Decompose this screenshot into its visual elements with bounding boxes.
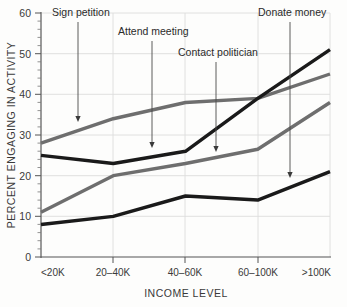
chart-page: 60 50 40 30 20 10 0 <20K 20–40K 40–60K 6…	[0, 0, 347, 307]
annotation-label-donate-money: Donate money	[258, 6, 327, 18]
series-line-sign-petition	[41, 74, 330, 143]
y-tick-label-10: 10	[19, 210, 31, 222]
annotation-label-attend-meeting: Attend meeting	[118, 25, 189, 37]
y-tick-label-50: 50	[19, 48, 31, 60]
series-line-attend-meeting	[41, 50, 330, 164]
annotations: Sign petitionAttend meetingContact polit…	[52, 6, 327, 178]
y-tick-label-20: 20	[19, 170, 31, 182]
x-tick-label-3: 60–100K	[238, 267, 278, 278]
y-tick-labels: 60 50 40 30 20 10 0	[19, 7, 31, 263]
x-axis-title: INCOME LEVEL	[144, 287, 228, 299]
x-tick-label-2: 40–60K	[168, 267, 203, 278]
series-lines	[41, 50, 330, 225]
x-axis	[41, 257, 331, 263]
y-tick-label-60: 60	[19, 7, 31, 19]
annotation-arrowhead-donate-money	[287, 172, 292, 178]
y-axis-title: PERCENT ENGAGING IN ACTIVITY	[5, 42, 17, 229]
y-axis	[35, 12, 41, 258]
x-tick-label-4: >100K	[302, 267, 332, 278]
x-tick-label-1: 20–40K	[96, 267, 131, 278]
annotation-arrowhead-contact-politician	[213, 146, 218, 152]
annotation-arrowhead-sign-petition	[75, 116, 80, 122]
x-tick-labels: <20K 20–40K 40–60K 60–100K >100K	[41, 267, 331, 278]
annotation-arrowhead-attend-meeting	[149, 142, 154, 148]
y-tick-label-30: 30	[19, 129, 31, 141]
line-chart: 60 50 40 30 20 10 0 <20K 20–40K 40–60K 6…	[0, 0, 347, 307]
y-tick-label-40: 40	[19, 88, 31, 100]
horizontal-gridlines	[41, 13, 330, 216]
annotation-label-contact-politician: Contact politician	[178, 46, 258, 58]
y-tick-label-0: 0	[25, 251, 31, 263]
annotation-label-sign-petition: Sign petition	[52, 6, 110, 18]
x-tick-label-0: <20K	[41, 267, 65, 278]
